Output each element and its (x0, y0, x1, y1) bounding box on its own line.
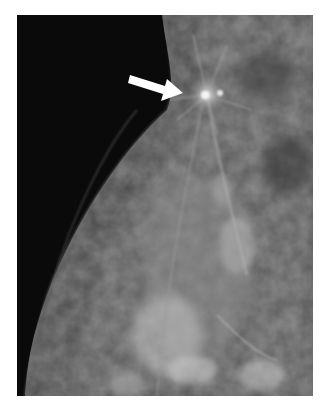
mammogram-svg (17, 15, 313, 396)
mammogram-image (17, 15, 313, 396)
